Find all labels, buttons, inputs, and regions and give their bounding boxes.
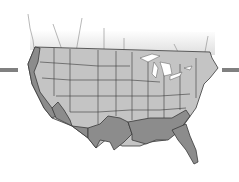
- florida: [172, 124, 198, 164]
- us-map: [0, 0, 239, 182]
